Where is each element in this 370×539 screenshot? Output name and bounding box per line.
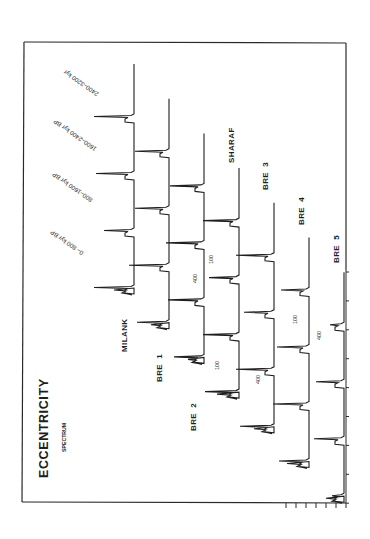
series-labels: MILANK BRE 1 BRE 2 SHARAF BRE 3 BRE 4 BR… [120, 127, 341, 431]
plot-frame [22, 42, 346, 503]
eccentricity-spectrum-figure: ECCENTRICITY SPECTRUM 0– 800 kyr BP 800–… [0, 0, 370, 539]
series-label-bre4: BRE 4 [297, 197, 306, 225]
peak-label-100: 100 [292, 315, 298, 324]
time-window-label-3: 2400–3200 kyr [62, 69, 100, 98]
spectrum-traces [94, 64, 344, 503]
series-label-bre1: BRE 1 [155, 354, 164, 382]
frame-left [22, 42, 24, 502]
frame-bottom [22, 502, 346, 503]
peak-label-100: 100 [214, 361, 220, 370]
trace-sharaf [203, 168, 239, 399]
trace-bre5 [314, 272, 344, 503]
time-window-labels: 0– 800 kyr BP 800–1600 kyr BP 1600–2400 … [49, 69, 100, 257]
peak-label-400: 400 [192, 274, 198, 283]
time-window-label-1: 800–1600 kyr BP [51, 171, 94, 204]
trace-milank [94, 64, 134, 295]
axis-ticks [286, 270, 349, 508]
series-label-sharaf: SHARAF [227, 127, 236, 163]
series-label-milank: MILANK [120, 318, 129, 352]
peak-annotations: 400100100400100400 [192, 255, 322, 384]
trace-bre2 [166, 133, 204, 364]
series-label-bre2: BRE 2 [189, 403, 198, 431]
trace-bre4 [273, 238, 309, 469]
peak-label-100: 100 [208, 255, 214, 264]
figure-subtitle: SPECTRUM [61, 423, 67, 452]
frame-top [24, 42, 346, 43]
peak-label-400: 400 [316, 331, 322, 340]
time-window-label-0: 0– 800 kyr BP [49, 229, 85, 257]
trace-bre1 [129, 99, 169, 330]
series-label-bre3: BRE 3 [261, 162, 270, 190]
figure-title: ECCENTRICITY [37, 378, 51, 478]
trace-bre3 [236, 203, 274, 434]
title-group: ECCENTRICITY SPECTRUM [37, 378, 67, 478]
series-label-bre5: BRE 5 [332, 235, 341, 263]
peak-label-400: 400 [255, 375, 261, 384]
time-window-label-2: 1600–2400 kyr BP [52, 118, 98, 153]
